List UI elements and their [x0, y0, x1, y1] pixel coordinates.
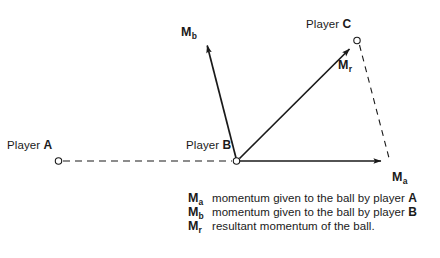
player-node-a: [55, 158, 61, 164]
construction-line-c-to-ma-tip: [360, 45, 390, 158]
player-label-b: Player B: [186, 139, 231, 152]
vector-label-mb: Mb: [181, 26, 197, 39]
legend-ma-player-id: A: [408, 191, 417, 205]
player-a-id: A: [44, 138, 53, 152]
legend-mb-subscript: b: [198, 211, 203, 221]
legend-mb-symbol-text: M: [188, 205, 198, 219]
vector-ma-symbol: M: [392, 170, 403, 184]
player-b-prefix: Player: [186, 139, 219, 151]
momentum-vector-diagram: Player A Player B Player C Ma Mb Mr Ma m…: [0, 0, 440, 258]
player-label-c: Player C: [306, 18, 351, 31]
legend-description-mr: resultant momentum of the ball.: [212, 219, 375, 233]
legend-row: Mb momentum given to the ball by player …: [188, 205, 438, 219]
vector-mr-subscript: r: [349, 64, 352, 74]
legend-symbol-mr: Mr: [188, 219, 212, 234]
legend-mr-symbol-text: M: [188, 219, 198, 233]
legend-description-mb: momentum given to the ball by player B: [212, 205, 417, 219]
player-c-prefix: Player: [306, 18, 339, 30]
legend-ma-symbol-text: M: [188, 191, 198, 205]
legend-mr-subscript: r: [198, 225, 201, 235]
vector-label-ma: Ma: [392, 171, 407, 184]
vector-mr-symbol: M: [338, 58, 349, 72]
legend: Ma momentum given to the ball by player …: [188, 191, 438, 233]
legend-ma-subscript: a: [198, 197, 203, 207]
player-label-a: Player A: [7, 139, 52, 152]
legend-symbol-mb: Mb: [188, 205, 212, 220]
legend-mb-player-id: B: [408, 205, 417, 219]
legend-row: Ma momentum given to the ball by player …: [188, 191, 438, 205]
vector-label-mr: Mr: [338, 59, 352, 72]
legend-row: Mr resultant momentum of the ball.: [188, 219, 438, 233]
legend-mb-text: momentum given to the ball by player: [212, 206, 408, 218]
vector-ma-subscript: a: [403, 176, 408, 186]
legend-description-ma: momentum given to the ball by player A: [212, 191, 417, 205]
vector-mb-subscript: b: [192, 31, 197, 41]
legend-mr-text: resultant momentum of the ball.: [212, 220, 375, 232]
legend-symbol-ma: Ma: [188, 191, 212, 206]
vector-mr-arrow: [240, 49, 350, 159]
player-b-id: B: [223, 138, 232, 152]
player-node-c: [354, 37, 360, 43]
player-a-prefix: Player: [7, 139, 40, 151]
vector-mb-symbol: M: [181, 25, 192, 39]
player-c-id: C: [343, 17, 352, 31]
player-node-b: [233, 158, 239, 164]
legend-ma-text: momentum given to the ball by player: [212, 192, 408, 204]
